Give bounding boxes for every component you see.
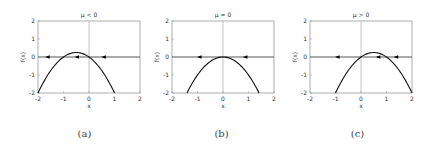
y-tick-label: -1: [29, 71, 35, 78]
x-tick-label: 2: [410, 95, 414, 102]
x-tick-label: -1: [333, 95, 339, 102]
x-tick-label: -1: [61, 95, 67, 102]
y-tick-label: -1: [301, 71, 307, 78]
y-tick-label: 2: [31, 17, 35, 24]
plot-title: μ = 0: [215, 11, 232, 19]
flow-arrow-icon: [75, 55, 80, 59]
flow-arrow-icon: [45, 55, 50, 59]
plot-title: μ > 0: [353, 11, 370, 19]
y-tick-label: 1: [303, 35, 307, 42]
plot-title: μ < 0: [81, 11, 98, 19]
x-tick-label: -2: [307, 95, 313, 102]
x-tick-label: 1: [385, 95, 389, 102]
flow-arrow-icon: [394, 55, 399, 59]
y-tick-label: 0: [31, 53, 35, 60]
y-tick-label: -2: [301, 89, 307, 96]
x-tick-label: 1: [247, 95, 251, 102]
y-tick-label: 1: [31, 35, 35, 42]
panel-a: -2-1012-2-1012μ < 0xf(x) (a): [0, 0, 145, 149]
y-tick-label: -2: [163, 89, 169, 96]
x-axis-label: x: [359, 102, 363, 109]
y-axis-label: f(x): [19, 52, 26, 62]
plot-c: -2-1012-2-1012μ > 0xf(x): [272, 0, 417, 125]
flow-arrow-icon: [101, 55, 106, 59]
caption-c: (c): [285, 128, 430, 139]
x-tick-label: 0: [359, 95, 363, 102]
x-tick-label: -2: [169, 95, 175, 102]
y-tick-label: -2: [29, 89, 35, 96]
flow-arrow-icon: [376, 55, 381, 59]
flow-arrow-icon: [335, 55, 340, 59]
x-axis-label: x: [221, 102, 225, 109]
panel-c: -2-1012-2-1012μ > 0xf(x) (c): [272, 0, 417, 149]
x-tick-label: 0: [87, 95, 91, 102]
flow-arrow-icon: [197, 55, 202, 59]
x-tick-label: 1: [113, 95, 117, 102]
function-curve: [336, 53, 413, 94]
panel-b: -2-1012-2-1012μ = 0xf(x) (b): [134, 0, 279, 149]
y-tick-label: 2: [165, 17, 169, 24]
x-tick-label: 0: [221, 95, 225, 102]
flow-arrow-icon: [243, 55, 248, 59]
y-axis-label: f(x): [153, 52, 160, 62]
y-tick-label: 2: [303, 17, 307, 24]
y-tick-label: 1: [165, 35, 169, 42]
x-tick-label: -2: [35, 95, 41, 102]
y-axis-label: f(x): [291, 52, 298, 62]
y-tick-label: 0: [303, 53, 307, 60]
plot-b: -2-1012-2-1012μ = 0xf(x): [134, 0, 279, 125]
x-axis-label: x: [87, 102, 91, 109]
y-tick-label: 0: [165, 53, 169, 60]
plot-a: -2-1012-2-1012μ < 0xf(x): [0, 0, 145, 125]
x-tick-label: -1: [195, 95, 201, 102]
y-tick-label: -1: [163, 71, 169, 78]
